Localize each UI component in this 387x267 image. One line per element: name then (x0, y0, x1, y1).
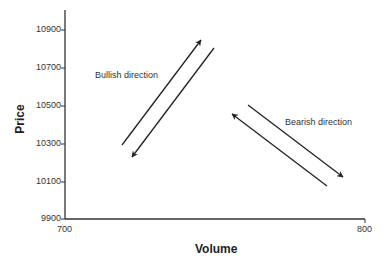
y-tick-9900: 9900 (41, 213, 61, 223)
y-tick-10700: 10700 (36, 62, 61, 72)
bullish-up-arrow (122, 40, 201, 145)
x-tick-700: 700 (57, 224, 72, 234)
x-axis-title: Volume (195, 242, 237, 256)
y-tick-10100: 10100 (36, 176, 61, 186)
y-axis-title: Price (13, 104, 27, 133)
bearish-direction-label: Bearish direction (285, 117, 352, 127)
y-tick-10300: 10300 (36, 138, 61, 148)
bearish-down-arrow (248, 105, 343, 177)
y-tick-10500: 10500 (36, 100, 61, 110)
bullish-direction-label: Bullish direction (95, 70, 158, 80)
x-tick-800: 800 (357, 224, 372, 234)
y-tick-10900: 10900 (36, 24, 61, 34)
bullish-down-arrow (132, 48, 214, 157)
